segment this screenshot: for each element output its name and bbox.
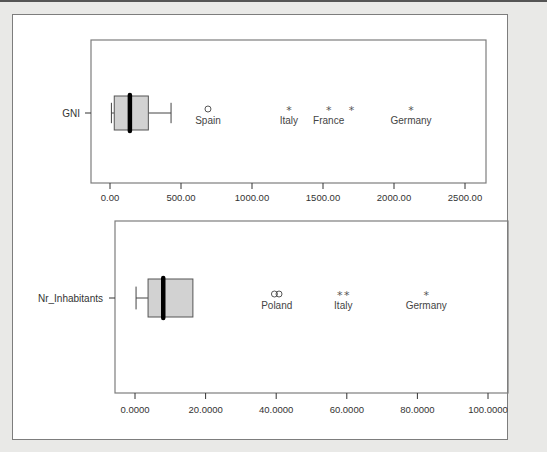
outlier-circle-icon [276,291,282,297]
boxplot-nr-inhabitants: Nr_Inhabitants0.000020.000040.000060.000… [38,221,508,415]
x-tick-label: 100.0000 [468,404,508,415]
x-tick-label: 2500.00 [448,192,482,203]
x-tick-label: 500.00 [166,192,195,203]
x-tick-label: 1000.00 [235,192,269,203]
iqr-box [148,279,193,317]
outlier-label: Spain [195,115,221,126]
x-tick-label: 80.0000 [400,404,434,415]
outlier-label: France [313,115,345,126]
outlier-label: Germany [390,115,431,126]
category-label: Nr_Inhabitants [38,293,103,304]
outlier-label: Germany [406,300,447,311]
x-tick-label: 0.0000 [120,404,149,415]
outlier-label: Poland [261,300,292,311]
x-tick-label: 2000.00 [377,192,411,203]
extreme-star-icon: * [349,104,355,117]
outlier-label: Italy [280,115,298,126]
x-tick-label: 0.00 [101,192,120,203]
x-tick-label: 1500.00 [306,192,340,203]
outlier-label: Italy [334,300,352,311]
outlier-circle-icon [205,106,211,112]
boxplot-figure: GNI0.00500.001000.001500.002000.002500.0… [0,0,547,452]
x-tick-label: 20.0000 [188,404,222,415]
boxplot-gni: GNI0.00500.001000.001500.002000.002500.0… [62,40,486,203]
x-tick-label: 40.0000 [259,404,293,415]
category-label: GNI [62,108,80,119]
x-tick-label: 60.0000 [330,404,364,415]
